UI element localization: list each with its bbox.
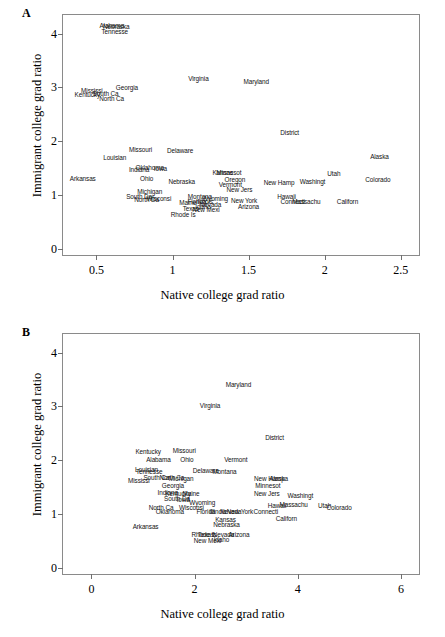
figure-root: A Immigrant college grad ratio Native co… (0, 0, 445, 637)
panel-b-point-label: Virginia (200, 402, 220, 409)
panel-a-y-tick-mark (58, 34, 63, 35)
panel-b-point-label: Maryland (226, 380, 251, 387)
panel-a-point-label: Utah (327, 169, 340, 176)
panel-b-y-tick-mark (58, 460, 63, 461)
panel-b-point-label: District (265, 434, 284, 441)
panel-a-letter: A (22, 6, 31, 21)
panel-a-y-tick-mark (58, 195, 63, 196)
panel-b-point-label: Mississi (128, 476, 150, 483)
panel-a-y-tick-label: 3 (51, 81, 57, 93)
panel-b-letter: B (22, 325, 30, 340)
panel-b-x-tick-mark (91, 574, 92, 579)
panel-b-y-tick-label: 0 (51, 562, 57, 574)
panel-a-point-label: North Ca (99, 95, 124, 102)
panel-b-point-label: Alaska (269, 475, 288, 482)
panel-a-point-label: Georgia (116, 84, 138, 91)
panel-a-point-label: Wisconsi (146, 194, 171, 201)
panel-b-y-tick-label: 4 (51, 347, 57, 359)
panel-b-point-label: Idaho (214, 535, 230, 542)
panel-a-x-tick-mark (96, 255, 97, 260)
panel-b-point-label: Colorado (326, 503, 351, 510)
panel-a-point-label: Massachu (292, 198, 320, 205)
panel-a-y-tick-mark (58, 249, 63, 250)
panel-a-x-tick-label: 0.5 (89, 264, 104, 276)
panel-b-point-label: Minnesot (255, 482, 280, 489)
panel-a-point-label: Maryland (243, 78, 268, 85)
panel-b-x-tick-label: 6 (398, 583, 404, 595)
panel-b-x-tick-mark (401, 574, 402, 579)
panel-a-y-tick-mark (58, 87, 63, 88)
panel-a-point-label: New Jers (227, 186, 253, 193)
panel-a-point-label: Colorado (365, 176, 390, 183)
panel-a-y-tick-label: 0 (51, 243, 57, 255)
panel-a-point-label: Rhode Is (171, 210, 196, 217)
panel-b-y-tick-mark (58, 353, 63, 354)
panel-b-point-label: Oklahoma (156, 508, 184, 515)
panel-a-point-label: New Hamp (264, 178, 295, 185)
panel-b-point-label: New York (227, 507, 253, 514)
panel-a-y-tick-mark (58, 141, 63, 142)
panel-a-x-tick-mark (249, 255, 250, 260)
panel-b-y-tick-mark (58, 568, 63, 569)
panel-a-point-label: Tennesse (101, 27, 128, 34)
panel-a-x-tick-label: 2.5 (393, 264, 408, 276)
panel-b-x-axis-label: Native college grad ratio (0, 607, 445, 622)
panel-b-point-label: Georgia (162, 481, 184, 488)
panel-b-x-tick-mark (195, 574, 196, 579)
panel-a-point-label: Washingt (300, 178, 326, 185)
panel-b: B Immigrant college grad ratio Native co… (0, 319, 445, 637)
panel-a-point-label: New Mexi (192, 205, 219, 212)
panel-a-point-label: Arizona (238, 202, 259, 209)
panel-b-point-label: Kentucky (135, 448, 161, 455)
panel-a-point-label: Nebraska (168, 178, 195, 185)
panel-b-point-label: Nebraska (213, 520, 240, 527)
panel-a: A Immigrant college grad ratio Native co… (0, 0, 445, 318)
panel-b-point-label: Massachu (279, 501, 307, 508)
panel-a-point-label: District (280, 129, 299, 136)
panel-a-x-tick-label: 1 (170, 264, 176, 276)
panel-b-y-axis-label: Immigrant college grad ratio (30, 345, 45, 545)
panel-b-y-tick-mark (58, 406, 63, 407)
panel-a-point-label: Arkansas (70, 175, 96, 182)
panel-a-point-label: Louisian (103, 154, 126, 161)
panel-a-x-tick-mark (173, 255, 174, 260)
panel-b-y-tick-label: 2 (51, 454, 57, 466)
panel-a-point-label: Iowa (154, 165, 167, 172)
panel-b-point-label: New Jers (254, 490, 280, 497)
panel-b-point-label: Arizona (228, 531, 249, 538)
panel-b-y-tick-mark (58, 514, 63, 515)
panel-a-point-label: Alaska (370, 152, 389, 159)
panel-a-point-label: Californ (337, 198, 358, 205)
panel-a-y-tick-label: 2 (51, 135, 57, 147)
panel-a-plot-area: 012340.511.522.5AlabamaNebraskaTennesseV… (62, 14, 420, 256)
panel-b-x-tick-label: 2 (192, 583, 198, 595)
panel-a-x-tick-mark (325, 255, 326, 260)
panel-a-y-tick-label: 4 (51, 28, 57, 40)
panel-a-point-label: Delaware (167, 147, 193, 154)
panel-b-point-label: Missouri (173, 446, 196, 453)
panel-a-x-axis-label: Native college grad ratio (0, 288, 445, 303)
panel-b-point-label: Californ (276, 515, 297, 522)
panel-b-point-label: Montana (212, 468, 236, 475)
panel-b-point-label: Connecti (254, 508, 278, 515)
panel-a-y-tick-label: 1 (51, 189, 57, 201)
panel-a-x-tick-label: 2 (322, 264, 328, 276)
panel-b-plot-area: 012340246MarylandVirginiaDistrictKentuck… (62, 333, 420, 575)
panel-b-y-tick-label: 3 (51, 400, 57, 412)
panel-b-point-label: Iowa (177, 495, 190, 502)
panel-a-point-label: Missouri (129, 145, 152, 152)
panel-b-x-tick-mark (298, 574, 299, 579)
panel-b-point-label: Washingt (288, 491, 314, 498)
panel-a-point-label: Virginia (188, 74, 208, 81)
panel-b-point-label: Alabama (146, 456, 171, 463)
panel-b-y-tick-label: 1 (51, 508, 57, 520)
panel-a-y-axis-label: Immigrant college grad ratio (30, 26, 45, 226)
panel-a-point-label: Minnesot (216, 168, 241, 175)
panel-a-point-label: Ohio (140, 175, 153, 182)
panel-a-x-tick-mark (401, 255, 402, 260)
panel-b-x-tick-label: 0 (88, 583, 94, 595)
panel-b-x-tick-label: 4 (295, 583, 301, 595)
panel-b-point-label: Vermont (224, 456, 247, 463)
panel-a-x-tick-label: 1.5 (241, 264, 256, 276)
panel-b-point-label: Ohio (180, 456, 193, 463)
